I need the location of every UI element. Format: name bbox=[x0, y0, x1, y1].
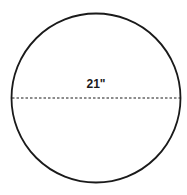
circle-diagram: 21" bbox=[0, 0, 187, 195]
diameter-label: 21" bbox=[86, 77, 105, 91]
